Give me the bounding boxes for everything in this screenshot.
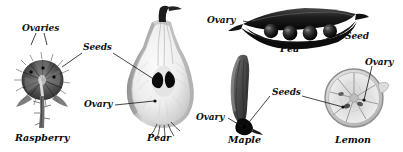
label-ovary-pear: Ovary [84, 100, 112, 109]
leader-seeds-to-lemon [302, 96, 343, 107]
leader-seeds-to-raspberry [62, 53, 82, 67]
caption-raspberry: Raspberry [15, 133, 69, 143]
leader-ovary-lemon [364, 66, 372, 100]
leader-lines [0, 0, 403, 152]
label-seed-pea: Seed [345, 32, 369, 41]
label-seeds-maple-lemon: Seeds [272, 88, 301, 97]
caption-pear: Pear [147, 133, 171, 143]
leader-ovary-pear [115, 101, 154, 105]
leader-seeds-to-maple [246, 96, 270, 126]
label-ovary-pea: Ovary [207, 16, 235, 25]
leader-ovaries-left [31, 33, 36, 45]
label-seeds-raspberry-pear: Seeds [83, 43, 112, 52]
caption-maple: Maple [228, 135, 261, 145]
label-ovary-lemon: Ovary [365, 58, 393, 67]
leader-ovaries-right [44, 33, 47, 45]
leader-seeds-to-pear [113, 53, 155, 80]
caption-lemon: Lemon [335, 135, 371, 145]
leader-seed-pea [330, 33, 343, 37]
label-ovary-maple: Ovary [196, 113, 224, 122]
fruit-anatomy-figure: Ovaries Seeds Ovary Ovary Seed Ovary See… [0, 0, 403, 152]
caption-pea: Pea [280, 44, 299, 54]
label-ovaries-raspberry: Ovaries [22, 24, 59, 33]
leader-ovary-pea [243, 21, 258, 24]
leader-ovary-maple [228, 118, 243, 127]
